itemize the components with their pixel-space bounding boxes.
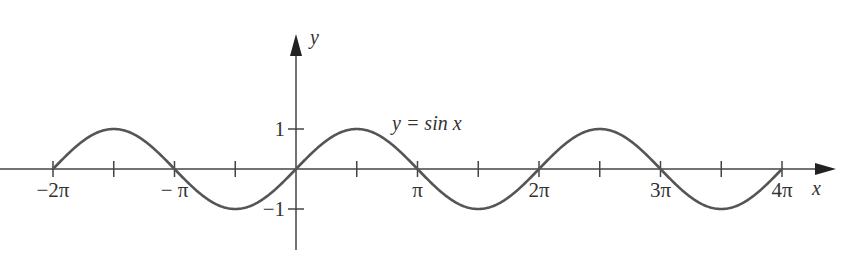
sine-graph: −2π− ππ2π3π4π 1−1 y x y = sin x xyxy=(0,0,848,264)
x-tick-label: −2π xyxy=(37,178,70,202)
y-tick-label: −1 xyxy=(263,197,285,221)
y-tick-label: 1 xyxy=(275,117,286,141)
x-tick-label: 2π xyxy=(528,178,550,202)
x-tick-label: − π xyxy=(161,178,189,202)
y-axis-arrow-icon xyxy=(290,34,302,56)
axes xyxy=(0,34,836,250)
x-axis-arrow-icon xyxy=(815,163,836,175)
x-axis-label: x xyxy=(811,177,821,199)
x-tick-label: π xyxy=(412,178,423,202)
x-tick-label: 3π xyxy=(650,178,672,202)
x-tick-label: 4π xyxy=(771,178,793,202)
curve-label: y = sin x xyxy=(390,112,462,135)
y-axis-label: y xyxy=(308,26,319,49)
